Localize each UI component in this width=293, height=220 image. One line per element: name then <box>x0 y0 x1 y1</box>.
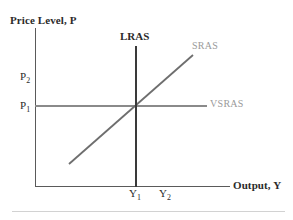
x-tick-label-y1: Y1 <box>129 188 141 202</box>
x-tick-y2-subscript: 2 <box>167 193 171 202</box>
lras-curve <box>135 46 137 187</box>
y-tick-label-p1: P1 <box>20 100 30 114</box>
aggregate-supply-diagram: Price Level, P LRAS SRAS VSRAS P2 P1 Y1 … <box>0 0 293 220</box>
y-tick-label-p2: P2 <box>20 71 30 85</box>
footer-divider <box>12 211 285 212</box>
lras-label: LRAS <box>120 31 149 42</box>
x-axis-title: Output, Y <box>233 180 281 191</box>
sras-curve <box>69 55 193 164</box>
y-axis-line <box>35 28 36 187</box>
x-tick-y1-subscript: 1 <box>137 193 141 202</box>
y-tick-p2-subscript: 2 <box>26 76 30 85</box>
y-axis-title: Price Level, P <box>10 15 76 26</box>
vsras-label: VSRAS <box>210 99 244 109</box>
x-tick-y2-base: Y <box>159 187 167 199</box>
y-tick-p1-subscript: 1 <box>26 105 30 114</box>
x-tick-y1-base: Y <box>129 187 137 199</box>
sras-label: SRAS <box>192 41 218 51</box>
x-tick-label-y2: Y2 <box>159 188 171 202</box>
